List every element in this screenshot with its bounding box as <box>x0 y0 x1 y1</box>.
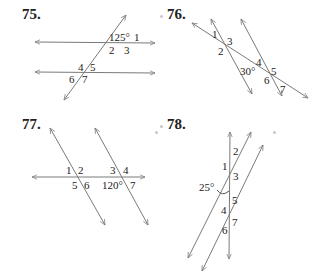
p78-angle-5: 5 <box>232 194 238 206</box>
p77-angle-5: 5 <box>72 179 78 191</box>
p78-angle-arc <box>217 190 229 194</box>
p77-angle-4: 4 <box>123 164 129 176</box>
p77-given-angle: 120° <box>102 179 123 191</box>
p75-angle-2: 2 <box>109 44 115 56</box>
p75-transversal <box>64 15 126 100</box>
p75-angle-3: 3 <box>124 44 130 56</box>
p76-given-angle: 30° <box>240 65 255 77</box>
p76-angle-3: 3 <box>227 35 233 47</box>
p78-angle-3: 3 <box>233 170 239 182</box>
p77-angle-6: 6 <box>84 179 90 191</box>
p75-given-angle: 125° <box>109 31 130 43</box>
p78-angle-4: 4 <box>221 204 227 216</box>
p75-angle-4: 4 <box>78 61 84 73</box>
p77-angle-7: 7 <box>130 179 136 191</box>
p76-angle-6: 6 <box>264 74 270 86</box>
p75-angle-5: 5 <box>90 61 96 73</box>
p76-angle-5: 5 <box>271 65 277 77</box>
p78-vertical <box>229 132 230 259</box>
p78-angle-2: 2 <box>233 145 239 157</box>
p78-angle-1: 1 <box>222 160 228 172</box>
p75-angle-6: 6 <box>69 73 75 85</box>
p77-angle-3: 3 <box>110 164 116 176</box>
p75-angle-7: 7 <box>82 73 88 85</box>
p76-angle-7: 7 <box>280 83 286 95</box>
p76-angle-4: 4 <box>256 56 262 68</box>
p78-line-right <box>202 145 263 271</box>
p76-angle-1: 1 <box>212 28 218 40</box>
p78-line-left <box>188 132 251 258</box>
p77-angle-2: 2 <box>78 164 84 176</box>
p78-angle-7: 7 <box>232 216 238 228</box>
p75-angle-1: 1 <box>134 31 140 43</box>
p76-angle-2: 2 <box>218 45 224 57</box>
geometry-figures: 125° 1 2 3 4 5 6 7 1 3 2 30° 4 5 6 7 1 2… <box>0 0 319 275</box>
p77-angle-1: 1 <box>66 164 72 176</box>
p78-angle-6: 6 <box>222 224 228 236</box>
p76-transversal <box>192 23 308 98</box>
p78-given-angle: 25° <box>199 181 214 193</box>
